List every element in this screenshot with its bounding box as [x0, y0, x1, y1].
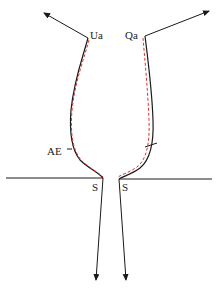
label-s-right: S — [122, 181, 128, 193]
arrow-qa — [145, 11, 209, 36]
label-s-left: S — [92, 181, 98, 193]
left-dashed-curve — [71, 40, 103, 177]
right-dashed-curve — [118, 38, 149, 177]
arrow-ua — [44, 13, 88, 38]
arrow-s-right — [119, 179, 126, 280]
diagram-canvas: Ua Qa AE S S — [0, 0, 217, 288]
label-qa: Qa — [125, 29, 138, 41]
left-solid-curve — [70, 38, 103, 178]
label-ua: Ua — [90, 29, 103, 41]
right-solid-curve — [119, 36, 153, 179]
arrow-s-left — [96, 178, 103, 280]
label-ae: AE — [47, 145, 62, 157]
